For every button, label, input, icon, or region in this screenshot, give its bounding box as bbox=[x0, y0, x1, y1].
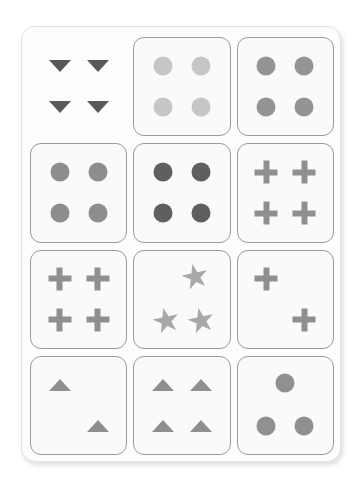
shape-slot-top-left bbox=[48, 267, 71, 290]
circle-icon bbox=[50, 163, 69, 182]
circle-icon bbox=[153, 204, 172, 223]
shape-slot-top-right bbox=[192, 163, 211, 182]
plus-icon bbox=[255, 267, 278, 290]
plus-icon bbox=[293, 202, 316, 225]
shape-slot-bottom-right bbox=[87, 101, 109, 113]
circle-icon bbox=[257, 416, 276, 435]
shape-slot-bottom-right bbox=[192, 98, 211, 117]
shape-slot-top-left bbox=[255, 161, 278, 184]
star-icon bbox=[153, 307, 179, 333]
shape-slot-bottom-right bbox=[190, 420, 212, 432]
shape-slot-bottom-left bbox=[48, 308, 71, 331]
shape-slot-top-right bbox=[86, 267, 109, 290]
triangle-down-icon bbox=[49, 101, 71, 113]
grid-cell-r2c1[interactable] bbox=[30, 143, 127, 242]
shape-slot-top-left bbox=[50, 163, 69, 182]
shape-slot-top-right bbox=[87, 60, 109, 72]
shape-slot-top-left bbox=[153, 57, 172, 76]
circle-icon bbox=[88, 204, 107, 223]
shape-slot-top-left bbox=[257, 57, 276, 76]
circle-icon bbox=[295, 98, 314, 117]
shape-slot-bottom-right-star bbox=[188, 307, 214, 333]
card-panel bbox=[21, 26, 341, 462]
shape-slot-bottom-left bbox=[153, 204, 172, 223]
shape-slot-top-right bbox=[190, 379, 212, 391]
triangle-up-icon bbox=[49, 379, 71, 391]
circle-icon bbox=[295, 57, 314, 76]
triangle-down-icon bbox=[87, 101, 109, 113]
shape-slot-bottom-right bbox=[192, 204, 211, 223]
plus-icon bbox=[86, 267, 109, 290]
grid-cell-r2c2[interactable] bbox=[133, 143, 230, 242]
shape-slot-bottom-right bbox=[293, 202, 316, 225]
triangle-up-icon bbox=[190, 420, 212, 432]
grid-cell-r4c1[interactable] bbox=[30, 356, 127, 455]
shape-slot-bottom-left bbox=[153, 98, 172, 117]
circle-icon bbox=[50, 204, 69, 223]
shape-slot-top-left bbox=[152, 379, 174, 391]
triangle-down-icon bbox=[87, 60, 109, 72]
shape-slot-bottom-right bbox=[87, 420, 109, 432]
plus-icon bbox=[255, 202, 278, 225]
circle-icon bbox=[295, 416, 314, 435]
circle-icon bbox=[257, 98, 276, 117]
grid-cell-r3c3[interactable] bbox=[237, 250, 334, 349]
plus-icon bbox=[86, 308, 109, 331]
grid-cell-r1c1[interactable] bbox=[30, 37, 127, 136]
shape-slot-top-right bbox=[192, 57, 211, 76]
shape-slot-bottom-left bbox=[152, 420, 174, 432]
circle-icon bbox=[192, 163, 211, 182]
shape-slot-top-left bbox=[153, 163, 172, 182]
shape-slot-top-left bbox=[49, 60, 71, 72]
grid-cell-r3c1[interactable] bbox=[30, 250, 127, 349]
grid-cell-r1c3[interactable] bbox=[237, 37, 334, 136]
shape-slot-bottom-right bbox=[295, 98, 314, 117]
circle-icon bbox=[192, 204, 211, 223]
shape-slot-top-right bbox=[293, 161, 316, 184]
shape-slot-bottom-left bbox=[257, 98, 276, 117]
shape-slot-bottom-right bbox=[88, 204, 107, 223]
plus-icon bbox=[293, 161, 316, 184]
circle-icon bbox=[192, 98, 211, 117]
star-icon bbox=[182, 263, 208, 289]
plus-icon bbox=[255, 161, 278, 184]
triangle-down-icon bbox=[49, 60, 71, 72]
triangle-up-icon bbox=[87, 420, 109, 432]
circle-icon bbox=[153, 163, 172, 182]
shape-slot-top-right bbox=[88, 163, 107, 182]
grid-cell-r3c2[interactable] bbox=[133, 250, 230, 349]
shape-slot-bottom-left bbox=[50, 204, 69, 223]
grid-cell-r1c2[interactable] bbox=[133, 37, 230, 136]
shape-slot-bottom-right bbox=[86, 308, 109, 331]
circle-icon bbox=[153, 98, 172, 117]
shape-slot-top-center bbox=[276, 374, 295, 393]
shape-slot-top-right bbox=[295, 57, 314, 76]
grid-cell-r2c3[interactable] bbox=[237, 143, 334, 242]
triangle-up-icon bbox=[152, 379, 174, 391]
shape-slot-top-left bbox=[255, 267, 278, 290]
grid-cell-r4c3[interactable] bbox=[237, 356, 334, 455]
circle-icon bbox=[88, 163, 107, 182]
grid-cell-r4c2[interactable] bbox=[133, 356, 230, 455]
plus-icon bbox=[48, 308, 71, 331]
circle-icon bbox=[257, 57, 276, 76]
plus-icon bbox=[293, 308, 316, 331]
circle-icon bbox=[153, 57, 172, 76]
shape-grid bbox=[30, 37, 334, 455]
shape-slot-top-left bbox=[49, 379, 71, 391]
triangle-up-icon bbox=[152, 420, 174, 432]
shape-slot-top-center-right bbox=[182, 263, 208, 289]
shape-slot-bottom-right bbox=[295, 416, 314, 435]
shape-slot-bottom-left bbox=[49, 101, 71, 113]
plus-icon bbox=[48, 267, 71, 290]
circle-icon bbox=[192, 57, 211, 76]
shape-slot-bottom-left-star bbox=[153, 307, 179, 333]
triangle-up-icon bbox=[190, 379, 212, 391]
shape-slot-bottom-left bbox=[257, 416, 276, 435]
star-icon bbox=[188, 307, 214, 333]
circle-icon bbox=[276, 374, 295, 393]
shape-slot-bottom-right bbox=[293, 308, 316, 331]
shape-slot-bottom-left bbox=[255, 202, 278, 225]
